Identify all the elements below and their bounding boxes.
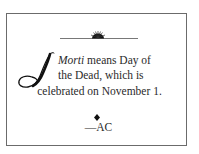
signature: —AC [0, 120, 197, 134]
line-1-rest: means Day of [84, 54, 151, 66]
sunburst-rule-icon [60, 30, 138, 42]
note-line-3: celebrated on November 1. [0, 84, 199, 98]
diamond-icon [94, 107, 100, 114]
note-page: Morti means Day of the Dead, which is ce… [0, 0, 199, 154]
note-line-2: the Dead, which is [58, 68, 144, 82]
italic-word: Morti [58, 54, 84, 66]
note-line-1: Morti means Day of [58, 53, 151, 67]
